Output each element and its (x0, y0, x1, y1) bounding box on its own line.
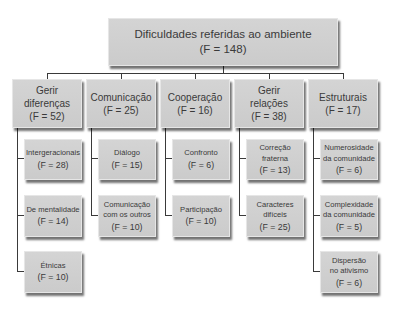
category-frequency: (F = 16) (177, 104, 212, 117)
subcategory-complexidade-da-comunidade: Complexidade da comunidade (F = 5) (320, 195, 378, 237)
subcategory-frequency: (F = 15) (111, 159, 142, 171)
tick (165, 158, 172, 159)
category-gerir-relacoes: Gerir relações (F = 38) (234, 79, 304, 128)
subcategory-dialogo: Diálogo (F = 15) (98, 139, 156, 180)
tick (91, 215, 98, 216)
category-cooperacao: Cooperação (F = 16) (160, 79, 230, 128)
subcategory-frequency: (F = 10) (37, 271, 68, 283)
tick (91, 158, 98, 159)
subcategory-label-line2: com os outros (103, 210, 151, 221)
subcategory-label: Confronto (184, 148, 217, 159)
category-gerir-diferencas: Gerir diferenças (F = 52) (12, 79, 82, 128)
tick (313, 158, 320, 159)
tick (239, 158, 246, 159)
subcategory-frequency: (F = 25) (259, 221, 290, 233)
category-label: Comunicação (90, 91, 151, 104)
subcategory-de-mentalidade: De mentalidade (F = 14) (24, 195, 82, 237)
children-spine-estruturais (313, 128, 314, 272)
subcategory-frequency: (F = 28) (37, 159, 68, 171)
subcategory-label: Complexidade (325, 200, 374, 211)
subcategory-label: Diálogo (114, 148, 140, 159)
subcategory-frequency: (F = 5) (336, 221, 362, 233)
subcategory-frequency: (F = 6) (188, 159, 214, 171)
subcategory-label: Comunicação (104, 200, 150, 211)
subcategory-label-line2: difíceis (263, 210, 287, 221)
subcategory-label-line2: no ativismo (330, 266, 368, 277)
subcategory-confronto: Confronto (F = 6) (172, 139, 230, 180)
children-spine-gerir-diferencas (17, 128, 18, 272)
subcategory-label: Caracteres (256, 200, 293, 211)
subcategory-label: Participação (180, 205, 222, 216)
subcategory-participacao: Participação (F = 10) (172, 195, 230, 237)
subcategory-comunicacao-com-os-outros: Comunicação com os outros (F = 10) (98, 195, 156, 237)
children-spine-gerir-relacoes (239, 128, 240, 216)
subcategory-label-line2: fraterna (262, 154, 288, 165)
subcategory-numerosidade-da-comunidade: Numerosidade da comunidade (F = 6) (320, 139, 378, 180)
subcategory-frequency: (F = 14) (37, 215, 68, 227)
subcategory-etnicas: Étnicas (F = 10) (24, 251, 82, 293)
tick (17, 215, 24, 216)
subcategory-label: Étnicas (41, 261, 66, 272)
category-frequency: (F = 25) (103, 104, 138, 117)
subcategory-frequency: (F = 13) (259, 164, 290, 176)
subcategory-frequency: (F = 6) (336, 164, 362, 176)
category-label: Cooperação (168, 91, 222, 104)
category-frequency: (F = 38) (251, 110, 286, 123)
subcategory-label-line2: da comunidade (323, 210, 375, 221)
category-frequency: (F = 17) (325, 104, 360, 117)
subcategory-label-line2: da comunidade (323, 154, 375, 165)
category-frequency: (F = 52) (29, 110, 64, 123)
subcategory-correcao-fraterna: Correção fraterna (F = 13) (246, 139, 304, 180)
root-label: Dificuldades referidas ao ambiente (134, 27, 311, 42)
tick (165, 215, 172, 216)
subcategory-frequency: (F = 10) (111, 221, 142, 233)
subcategory-label: Intergeracionais (26, 148, 80, 159)
subcategory-caracteres-dificeis: Caracteres difíceis (F = 25) (246, 195, 304, 237)
subcategory-dispersao-no-ativismo: Dispersão no ativismo (F = 6) (320, 251, 378, 293)
tick (17, 271, 24, 272)
category-comunicacao: Comunicação (F = 25) (86, 79, 156, 128)
subcategory-frequency: (F = 6) (336, 277, 362, 289)
category-estruturais: Estruturais (F = 17) (308, 79, 378, 128)
category-label-line2: relações (250, 97, 288, 110)
category-label: Estruturais (319, 91, 367, 104)
root-node: Dificuldades referidas ao ambiente (F = … (108, 18, 338, 66)
tick (17, 158, 24, 159)
tick (313, 215, 320, 216)
tick (239, 215, 246, 216)
subcategory-label: Dispersão (332, 256, 366, 267)
root-frequency: (F = 148) (200, 42, 247, 57)
tick (313, 271, 320, 272)
subcategory-label: Correção (259, 143, 290, 154)
category-label: Gerir (258, 84, 280, 97)
children-spine-comunicacao (91, 128, 92, 216)
children-spine-cooperacao (165, 128, 166, 216)
subcategory-intergeracionais: Intergeracionais (F = 28) (24, 139, 82, 180)
category-label: Gerir (36, 84, 58, 97)
subcategory-label: Numerosidade (324, 143, 373, 154)
category-label-line2: diferenças (24, 97, 70, 110)
subcategory-frequency: (F = 10) (185, 215, 216, 227)
subcategory-label: De mentalidade (26, 205, 79, 216)
